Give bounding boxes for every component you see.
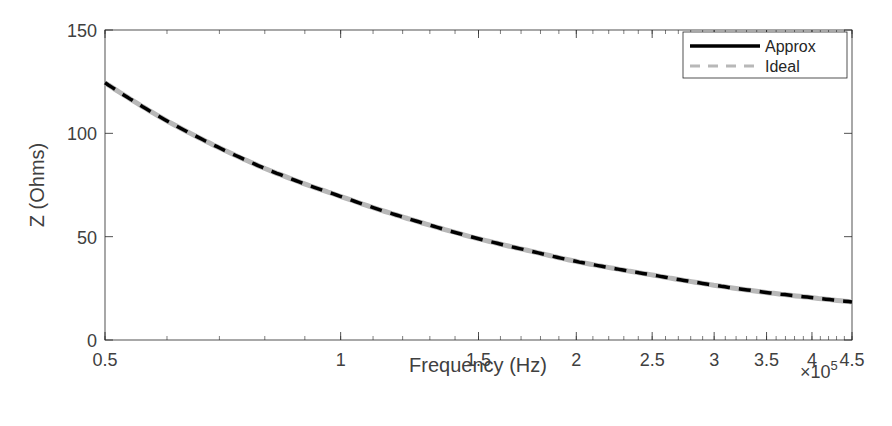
x-tick-label: 2.5 [640,350,665,370]
x-tick-label: 1 [336,350,346,370]
multiplier-base: ×10 [800,362,831,382]
y-tick-label: 150 [67,21,97,41]
legend: Approx Ideal [683,32,847,78]
y-tick-label: 100 [67,124,97,144]
y-tick-label: 50 [77,228,97,248]
y-tick-label: 0 [87,331,97,351]
legend-ideal-label: Ideal [765,58,800,75]
x-tick-label: 3.5 [754,350,779,370]
x-tick-label: 0.5 [92,350,117,370]
y-axis-label: Z (Ohms) [26,143,48,227]
x-axis-label: Frequency (Hz) [409,354,547,376]
x-tick-label: 3 [709,350,719,370]
multiplier-exponent: 5 [831,358,838,373]
x-tick-label: 2 [571,350,581,370]
x-multiplier: ×105 [800,358,838,382]
impedance-chart: 0.511.522.533.544.5050100150 Frequency (… [0,0,892,426]
legend-approx-label: Approx [765,38,816,55]
x-tick-label: 4.5 [839,350,864,370]
